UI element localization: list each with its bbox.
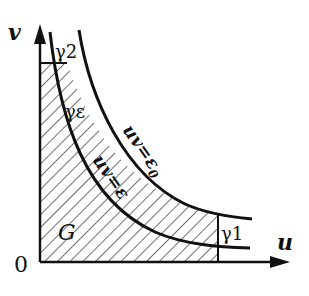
u-axis-arrow-icon — [270, 256, 290, 268]
region-g-label: G — [58, 220, 76, 245]
diagram: v u 0 γ2 γε γ1 G uv=ε0 uv=ε — [0, 0, 309, 296]
v-axis-label: v — [8, 19, 21, 45]
v-axis-arrow-icon — [34, 24, 46, 44]
u-axis-label: u — [277, 229, 293, 255]
gamma1-label: γ1 — [221, 223, 243, 244]
gamma2-label: γ2 — [55, 41, 77, 62]
gamma-eps-label: γε — [65, 101, 85, 122]
origin-label: 0 — [14, 252, 28, 277]
